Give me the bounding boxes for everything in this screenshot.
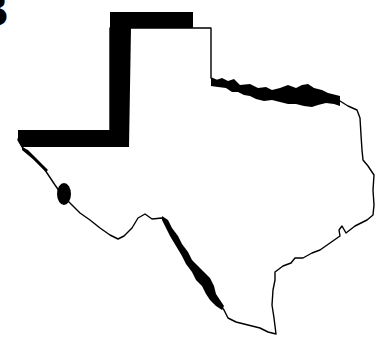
rio-grande-blob bbox=[57, 183, 71, 205]
texas-map-figure: B bbox=[0, 0, 384, 345]
texas-map-svg bbox=[0, 0, 384, 345]
texas-outline bbox=[18, 28, 374, 334]
